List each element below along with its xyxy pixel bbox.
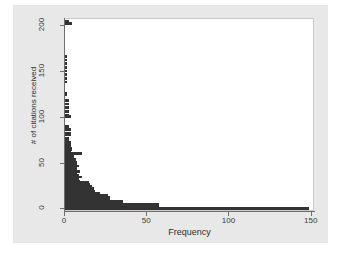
x-axis-title: Frequency — [64, 227, 315, 237]
y-axis-line — [64, 18, 65, 212]
figure-canvas: 050100150200 050100150 # of citations re… — [13, 5, 328, 243]
y-axis-tick-label: 50 — [37, 151, 46, 173]
y-axis-tick — [60, 208, 64, 209]
x-axis-line — [64, 211, 315, 212]
y-axis-tick-label: 100 — [37, 105, 46, 127]
x-axis-tick-label: 100 — [215, 216, 241, 225]
y-axis-tick-label: 0 — [37, 197, 46, 219]
x-axis-tick-label: 150 — [298, 216, 324, 225]
y-axis-tick — [60, 25, 64, 26]
y-axis-tick — [60, 71, 64, 72]
y-axis-tick-label: 150 — [37, 60, 46, 82]
y-axis-tick-label: 200 — [37, 14, 46, 36]
chart-screenshot: 050100150200 050100150 # of citations re… — [0, 0, 341, 259]
y-axis-tick — [60, 117, 64, 118]
x-axis-tick-label: 0 — [51, 216, 77, 225]
y-axis-title: # of citations received — [29, 46, 38, 166]
x-axis-tick-label: 50 — [133, 216, 159, 225]
y-axis-tick — [60, 163, 64, 164]
